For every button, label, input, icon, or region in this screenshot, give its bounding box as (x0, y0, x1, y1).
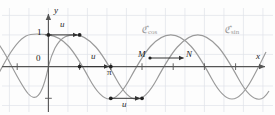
curve-label-sin-script: ℭ (224, 24, 231, 35)
x-tick-label-pi: π (107, 68, 112, 77)
curve-label-cos-sub: cos (148, 28, 157, 36)
x-axis-label: x (256, 52, 260, 61)
figure-canvas: y x 1 0 π u⃗ u⃗ u⃗ M N ℭcos ℭsin (0, 0, 275, 115)
curve-label-sin-sub: sin (231, 28, 239, 36)
curve-label-cos: ℭcos (141, 25, 157, 36)
vector-u-bottom-label: u⃗ (122, 100, 134, 109)
y-tick-label-1: 1 (37, 28, 42, 37)
origin-label: 0 (36, 54, 41, 63)
vector-u-middle-label: u⃗ (91, 52, 103, 61)
curve-label-sin: ℭsin (224, 25, 239, 36)
y-axis-label: y (54, 6, 58, 15)
curve-label-cos-script: ℭ (141, 24, 148, 35)
vector-u-top-label: u⃗ (60, 20, 72, 29)
point-label-n: N (186, 50, 192, 59)
point-label-m: M (138, 50, 146, 59)
